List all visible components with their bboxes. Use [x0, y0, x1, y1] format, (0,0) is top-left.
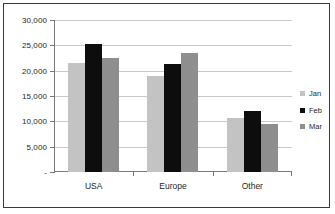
- bar-other-feb[interactable]: [244, 111, 261, 172]
- legend-swatch-icon: [300, 124, 305, 129]
- bar-europe-feb[interactable]: [164, 64, 181, 172]
- x-axis-label-europe: Europe: [133, 181, 212, 191]
- y-axis-label: 25,000: [22, 41, 47, 50]
- x-axis-tick: [133, 171, 134, 176]
- y-axis-label: 15,000: [22, 92, 47, 101]
- x-axis-label-usa: USA: [54, 181, 133, 191]
- legend-label: Mar: [309, 123, 322, 131]
- chart-frame: -5,00010,00015,00020,00025,00030,000 USA…: [3, 3, 330, 208]
- bar-other-jan[interactable]: [227, 118, 244, 172]
- legend-item-jan[interactable]: Jan: [300, 90, 322, 98]
- y-axis-label: -: [44, 168, 47, 177]
- x-axis-tick: [291, 171, 292, 176]
- bar-group: Europe: [133, 20, 212, 172]
- legend-label: Feb: [309, 107, 322, 115]
- legend-swatch-icon: [300, 108, 305, 113]
- bar-europe-jan[interactable]: [147, 76, 164, 172]
- x-axis-tick: [213, 171, 214, 176]
- y-axis-label: 5,000: [26, 142, 47, 151]
- y-axis-tick: [50, 172, 55, 173]
- bar-group: USA: [54, 20, 133, 172]
- chart-legend: JanFebMar: [300, 90, 322, 131]
- legend-swatch-icon: [300, 91, 305, 96]
- legend-label: Jan: [309, 90, 321, 98]
- bar-usa-jan[interactable]: [68, 63, 85, 172]
- bar-usa-feb[interactable]: [85, 44, 102, 172]
- y-axis-label: 20,000: [22, 66, 47, 75]
- x-axis-label-other: Other: [213, 181, 292, 191]
- legend-item-mar[interactable]: Mar: [300, 123, 322, 131]
- bar-usa-mar[interactable]: [102, 58, 119, 173]
- bar-europe-mar[interactable]: [181, 53, 198, 172]
- bar-other-mar[interactable]: [261, 124, 278, 172]
- bar-group: Other: [213, 20, 292, 172]
- legend-item-feb[interactable]: Feb: [300, 107, 322, 115]
- y-axis-label: 30,000: [22, 16, 47, 25]
- y-axis-label: 10,000: [22, 117, 47, 126]
- plot-area: -5,00010,00015,00020,00025,00030,000 USA…: [54, 20, 292, 172]
